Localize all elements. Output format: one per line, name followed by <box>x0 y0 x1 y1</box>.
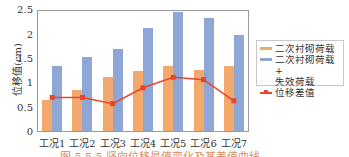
line-marker-icon <box>260 87 272 98</box>
legend-label: 二次衬砌荷载 <box>275 43 335 54</box>
legend-item-secondary-lining: 二次衬砌荷载 <box>260 43 340 54</box>
legend-item-secondary-lining-plus-failure: 二次衬砌荷载+失效荷载 <box>260 54 340 87</box>
orange-swatch-icon <box>260 47 272 50</box>
blue-swatch-icon <box>260 58 272 61</box>
legend-label: 二次衬砌荷载+失效荷载 <box>275 54 340 87</box>
figure-caption: 图 5.5.5 竖向位移最值变化及其差值曲线 <box>60 148 260 157</box>
legend: 二次衬砌荷载 二次衬砌荷载+失效荷载 位移差值 <box>256 40 344 86</box>
legend-item-displacement-difference: 位移差值 <box>260 87 340 98</box>
legend-label: 位移差值 <box>275 87 315 98</box>
